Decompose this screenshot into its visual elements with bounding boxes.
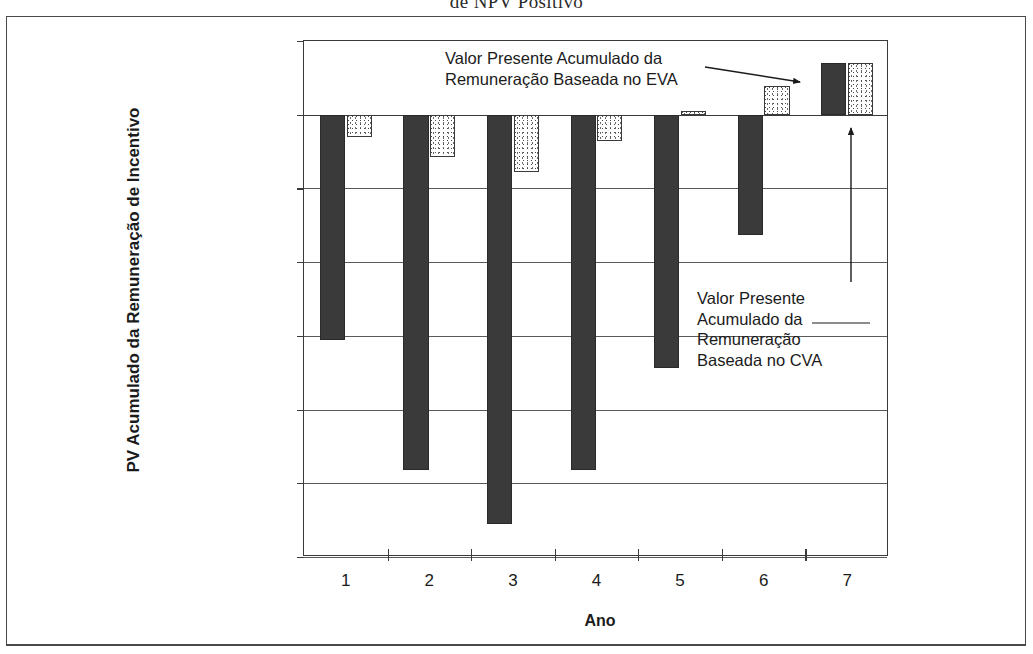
y-axis-title: PV Acumulado da Remuneração de Incentivo [124,80,144,500]
x-tick-label: 4 [567,571,627,591]
y-tick-mark [297,336,304,337]
x-tick-mark [471,549,472,561]
x-axis-title: Ano [300,612,900,630]
bar-eva-5 [681,111,706,115]
bar-cva-2 [403,115,428,471]
y-tick-mark [297,410,304,411]
bar-cva-5 [654,115,679,369]
annotation-eva: Valor Presente Acumulado da Remuneração … [445,48,678,89]
bar-eva-1 [347,115,372,137]
x-tick-label: 1 [316,571,376,591]
annotation-cva: Valor Presente Acumulado da Remuneração … [697,288,822,371]
y-tick-mark [297,557,304,558]
bar-eva-2 [430,115,455,157]
y-tick-mark [297,262,304,263]
x-tick-mark [388,549,389,561]
gridline [304,483,887,484]
gridline [304,557,887,558]
x-tick-label: 2 [399,571,459,591]
x-tick-mark [555,549,556,561]
page-title: de NPV Positivo [0,0,1033,13]
bar-cva-7 [821,63,846,115]
bar-eva-7 [848,63,873,115]
bar-cva-4 [571,115,596,471]
page-bottom-rule [6,644,1026,646]
x-tick-label: 3 [483,571,543,591]
x-tick-mark [805,549,806,561]
x-tick-mark [722,549,723,561]
bar-cva-1 [320,115,345,340]
x-tick-label: 7 [817,571,877,591]
y-tick-mark [297,483,304,484]
x-tick-label: 6 [734,571,794,591]
x-tick-label: 5 [650,571,710,591]
y-tick-mark [297,188,304,189]
y-tick-mark [297,115,304,116]
bar-cva-3 [487,115,512,524]
bar-eva-3 [514,115,539,172]
bar-cva-6 [738,115,763,235]
x-tick-mark [638,549,639,561]
bar-eva-4 [597,115,622,142]
y-tick-mark [297,41,304,42]
bar-eva-6 [764,86,789,115]
